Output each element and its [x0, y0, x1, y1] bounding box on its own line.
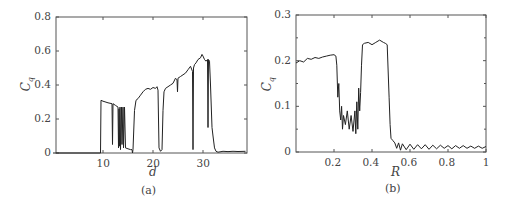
chart-panel-b: Cq R (b) 00.10.20.30.20.40.60.81: [255, 0, 510, 209]
y-axis-label-a: Cq: [19, 77, 35, 91]
chart-panel-a: Cq d (a) 00.20.40.60.8102030: [0, 0, 255, 209]
x-axis-label-b: R: [391, 165, 400, 179]
x-tick-label: 0.8: [438, 156, 455, 168]
y-tick-label: 0.2: [34, 112, 51, 124]
x-tick-label: 30: [197, 157, 210, 169]
y-axis-label-main: C: [19, 82, 33, 91]
caption-b: (b): [385, 182, 401, 195]
x-tick-label: 10: [97, 157, 110, 169]
plot-area-a: [0, 0, 255, 209]
y-axis-label-b: Cq: [260, 77, 276, 91]
x-tick-label: 1: [483, 156, 490, 168]
y-tick-label: 0.6: [34, 44, 51, 56]
y-tick-label: 0: [44, 146, 51, 158]
y-axis-label-main: C: [260, 82, 274, 91]
data-series-line: [53, 54, 246, 153]
data-series-line: [296, 40, 486, 150]
y-tick-label: 0.8: [34, 10, 51, 22]
plot-area-b: [255, 0, 510, 209]
y-tick-label: 0: [284, 145, 291, 157]
axes-frame: [56, 17, 247, 153]
y-tick-label: 0.1: [274, 99, 291, 111]
caption-a: (a): [141, 184, 156, 197]
x-tick-label: 0.2: [324, 156, 341, 168]
y-axis-label-sub: q: [267, 77, 276, 82]
x-tick-label: 20: [147, 157, 160, 169]
x-tick-label: 0.6: [400, 156, 417, 168]
y-tick-label: 0.3: [274, 8, 291, 20]
x-tick-label: 0.4: [362, 156, 379, 168]
y-tick-label: 0.4: [34, 78, 51, 90]
y-tick-label: 0.2: [274, 54, 291, 66]
